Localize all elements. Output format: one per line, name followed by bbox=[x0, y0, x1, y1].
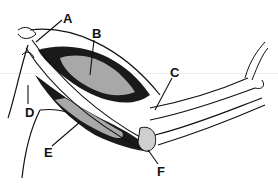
arm-anatomy-diagram: A B C D E F bbox=[0, 0, 278, 188]
elbow-joint bbox=[138, 127, 156, 151]
arm-drawing bbox=[0, 0, 278, 188]
label-e: E bbox=[44, 146, 53, 159]
label-a: A bbox=[63, 12, 72, 25]
label-f: F bbox=[157, 165, 165, 178]
label-c: C bbox=[170, 66, 179, 79]
hand bbox=[245, 42, 268, 89]
label-b: B bbox=[92, 27, 101, 40]
label-d: D bbox=[25, 106, 34, 119]
